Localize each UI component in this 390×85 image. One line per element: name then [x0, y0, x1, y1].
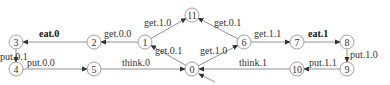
- state-label: 6: [242, 37, 247, 48]
- state-6: 6: [237, 35, 251, 49]
- transition-label: get.1.1: [254, 28, 281, 39]
- transition-label: put.1.0: [350, 49, 378, 60]
- state-4: 4: [9, 62, 23, 76]
- state-label: 9: [345, 64, 350, 75]
- state-10: 10: [290, 62, 304, 76]
- state-label: 5: [92, 64, 97, 75]
- state-label: 4: [14, 64, 19, 75]
- state-label: 8: [345, 37, 350, 48]
- state-label: 7: [295, 37, 300, 48]
- state-3: 3: [9, 35, 23, 49]
- transition-label: get.0.0: [104, 28, 131, 39]
- transition-label: think.1: [239, 57, 267, 68]
- transition-label: think.0: [122, 57, 150, 68]
- state-0: 0: [185, 62, 199, 76]
- transition-labels: get.0.1get.0.0eat.0put.0.1put.0.0think.0…: [0, 17, 378, 68]
- transition-label: get.0.1: [155, 45, 182, 56]
- transition-label: put.0.1: [0, 51, 28, 62]
- state-2: 2: [87, 35, 101, 49]
- state-5: 5: [87, 62, 101, 76]
- transition-label: get.0.1: [214, 17, 241, 28]
- state-label: 3: [14, 37, 19, 48]
- transition-label: put.1.1: [309, 57, 337, 68]
- transition-label: eat.1: [308, 28, 328, 39]
- state-label: 1: [143, 37, 148, 48]
- state-label: 0: [190, 64, 195, 75]
- state-9: 9: [340, 62, 354, 76]
- transition-label: put.0.0: [27, 57, 55, 68]
- transition-label: eat.0: [39, 28, 59, 39]
- state-11: 11: [185, 8, 199, 22]
- initial-state-arrow: [199, 74, 215, 82]
- state-label: 10: [292, 64, 302, 75]
- transition-label: get.1.0: [200, 45, 227, 56]
- state-8: 8: [340, 35, 354, 49]
- transition-label: get.1.0: [144, 17, 171, 28]
- state-1: 1: [138, 35, 152, 49]
- lts-diagram: 01234567891011 get.0.1get.0.0eat.0put.0.…: [0, 0, 390, 85]
- state-7: 7: [290, 35, 304, 49]
- state-label: 2: [92, 37, 97, 48]
- state-label: 11: [187, 10, 197, 21]
